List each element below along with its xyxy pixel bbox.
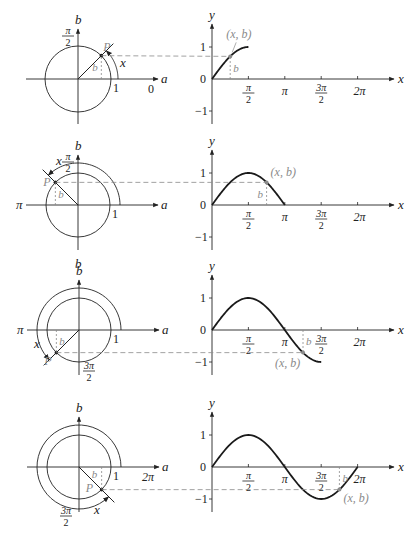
y-tick-neg-1: −1 [195,230,208,244]
zero-label: 0 [148,82,154,96]
y-tick-1: 1 [200,40,206,54]
point-p-label: P [43,354,52,368]
angle-x-label: x [55,153,62,168]
y-tick-0: 0 [200,72,206,86]
pi-over-2-label: π2 [62,25,74,48]
y-axis-label: y [207,258,215,273]
x-tick-3pi-over-2-denominator: 2 [319,482,324,493]
y-axis-label: y [207,133,215,148]
b-axis-label: b [75,138,82,153]
point-xb-label: (x, b) [226,27,251,41]
y-tick-1: 1 [200,291,206,305]
sine-graph: xy10−1π2π3π22πb(x, b) [195,258,404,375]
panel-3: ab1Pbxπ3π2xy10−1π2π3π22πb(x, b) [17,258,404,383]
x-tick-3pi-over-2-numerator: 3π [315,82,327,93]
pi-label: π [16,197,23,212]
angle-x-label: x [93,502,100,517]
pi-over-2-label-numerator: π [65,25,71,36]
x-axis-label: x [397,322,404,337]
point-xb-label: (x, b) [275,356,300,370]
sine-graph: xy10−1π2π3π22πb(x, b) [195,395,404,512]
three-pi-over-2-label-denominator: 2 [64,517,69,528]
y-tick-1: 1 [200,166,206,180]
x-tick-pi-over-2-numerator: π [246,470,252,481]
three-pi-over-2-label: 3π2 [60,505,72,528]
figure-canvas: ab1Pbxπ20xy10−1π2π3π22πb(x, b)ab1Pbxπ2πb… [0,0,409,541]
terminal-ray-tip [43,170,44,171]
panels-group: ab1Pbxπ20xy10−1π2π3π22πb(x, b)ab1Pbxπ2πb… [16,7,404,528]
point-xb-label: (x, b) [271,165,296,179]
x-tick-2pi: 2π [354,335,367,349]
panel-1: ab1Pbxπ20xy10−1π2π3π22πb(x, b) [26,7,404,124]
x-tick-pi-over-2-numerator: π [246,82,252,93]
pi-over-2-label: π2 [62,151,74,174]
point-p-label: P [42,175,51,189]
pi-over-2-label-denominator: 2 [66,37,71,48]
height-b-label: b [58,188,64,200]
three-pi-over-2-label-denominator: 2 [87,372,92,383]
x-axis-label: x [397,71,404,86]
height-b-label: b [59,335,65,347]
graph-b-label: b [342,472,348,484]
terminal-ray-tip [112,44,113,45]
x-tick-3pi-over-2: 3π2 [315,82,327,105]
pi-over-2-label-numerator: π [65,151,71,162]
b-axis-label: b [75,12,82,27]
x-tick-3pi-over-2-numerator: 3π [315,470,327,481]
graph-b-label: b [258,188,264,200]
y-tick-1: 1 [200,428,206,442]
y-tick-neg-1: −1 [195,355,208,369]
x-tick-3pi-over-2: 3π2 [315,208,327,231]
b-axis-label: b [76,400,83,415]
b-axis-label: b [76,263,83,278]
angle-x-label: x [33,336,40,351]
x-tick-pi: π [282,210,289,224]
x-axis-label: x [397,197,404,212]
sine-graph: xy10−1π2π3π22πb(x, b) [195,7,404,124]
three-pi-over-2-label: 3π2 [83,360,95,383]
radius-one-label: 1 [113,332,119,346]
x-tick-pi: π [282,472,289,486]
sine-graph: xy10−1π2π3π22πb(x, b) [195,133,404,250]
graph-b-label: b [233,62,239,74]
two-pi-label: 2π [142,470,155,484]
y-axis-label: y [207,395,215,410]
x-tick-pi: π [282,84,289,98]
a-axis-label: a [162,322,169,337]
angle-x-label: x [119,55,126,70]
x-tick-3pi-over-2-denominator: 2 [319,94,324,105]
y-tick-neg-1: −1 [195,492,208,506]
x-tick-3pi-over-2-denominator: 2 [319,345,324,356]
point-xb-label: (x, b) [343,491,368,505]
x-tick-pi-over-2-denominator: 2 [246,482,251,493]
terminal-ray-tip [113,501,114,502]
radius-one-label: 1 [112,207,118,221]
y-axis-label: y [207,7,215,22]
graph-b-label: b [306,335,312,347]
x-tick-3pi-over-2-numerator: 3π [315,333,327,344]
point-p-label: P [85,481,94,495]
pi-over-2-label-denominator: 2 [66,163,71,174]
point-p-label: P [102,40,111,54]
x-tick-pi-over-2: π2 [242,82,254,105]
radius-one-label: 1 [113,469,119,483]
y-tick-0: 0 [200,460,206,474]
x-tick-pi-over-2: π2 [242,208,254,231]
a-axis-label: a [161,197,168,212]
a-axis-label: a [161,71,168,86]
sine-unit-circle-figure: ab1Pbxπ20xy10−1π2π3π22πb(x, b)ab1Pbxπ2πb… [0,0,409,541]
unit-circle-diagram: ab1Pbxπ3π2 [17,263,169,383]
y-tick-neg-1: −1 [195,104,208,118]
x-tick-pi: π [282,335,289,349]
x-tick-2pi: 2π [354,84,367,98]
x-tick-2pi: 2π [354,210,367,224]
x-tick-pi-over-2-numerator: π [246,333,252,344]
three-pi-over-2-label-numerator: 3π [60,505,72,516]
x-tick-pi-over-2-numerator: π [246,208,252,219]
x-tick-3pi-over-2-denominator: 2 [319,220,324,231]
height-b-label: b [92,61,98,73]
unit-circle-diagram: ab1Pbxπ20 [26,12,168,124]
pi-label: π [17,322,24,337]
unit-circle-diagram: ab1Pbx3π22π [27,400,169,528]
unit-circle-diagram: ab1Pbxπ2πb [16,138,168,271]
